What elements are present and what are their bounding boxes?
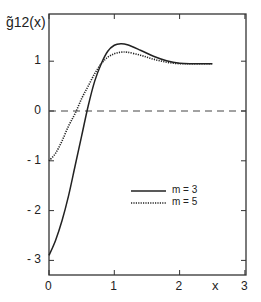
y-axis-label: g̃12(x) <box>6 14 46 30</box>
y-tick-label: 0 <box>34 103 41 117</box>
y-tick-label: - 3 <box>27 252 41 266</box>
y-tick-label: 1 <box>34 53 41 67</box>
y-tick-label: - 1 <box>27 153 41 167</box>
y-tick-label: - 2 <box>27 203 41 217</box>
x-tick-label: 1 <box>110 279 117 293</box>
x-tick-label: 2 <box>176 279 183 293</box>
legend <box>131 191 166 203</box>
x-tick-label: 3 <box>241 279 248 293</box>
x-tick-label: 0 <box>45 279 52 293</box>
legend-label-m3: m = 3 <box>172 184 197 195</box>
x-axis-label: x <box>212 278 219 293</box>
series-lines <box>49 44 212 256</box>
legend-label-m5: m = 5 <box>172 196 197 207</box>
